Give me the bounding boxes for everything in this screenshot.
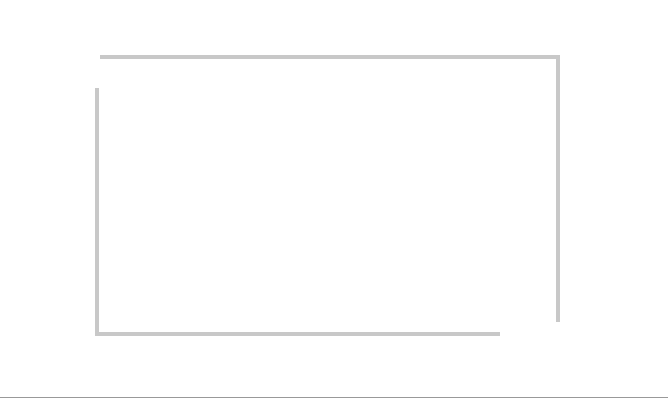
footer-divider [0,397,668,398]
frame-left-line [95,88,99,335]
frame-bottom-line [95,332,500,336]
frame-right-line [556,57,560,322]
frame-top-line [100,55,560,59]
